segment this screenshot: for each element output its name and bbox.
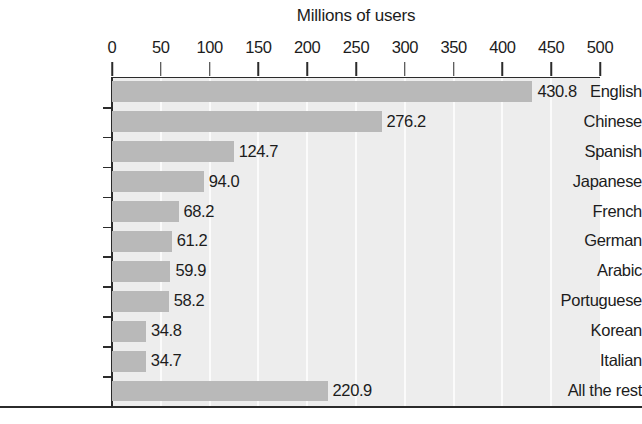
x-tick-label-100: 100 [196,38,222,57]
x-tick-mark-300 [404,62,406,76]
category-label-portuguese: Portuguese [538,291,642,310]
x-tick-label-50: 50 [152,38,170,57]
y-tick-mark [103,286,112,288]
bar-spanish [112,141,234,162]
bar-row: French68.2 [0,197,642,227]
bar-value-portuguese: 58.2 [174,291,205,310]
bar-row: Korean34.8 [0,316,642,346]
x-tick-mark-100 [209,62,211,76]
bar-value-french: 68.2 [184,202,215,221]
x-tick-label-400: 400 [489,38,515,57]
bar-value-italian: 34.7 [151,351,182,370]
bar-arabic [112,261,170,282]
bar-value-arabic: 59.9 [175,261,206,280]
x-axis-tick-labels: 050100150200250300350400450500 [0,38,642,58]
bar-french [112,201,179,222]
category-label-chinese: Chinese [538,112,642,131]
bar-row: English430.8 [0,77,642,107]
bar-value-chinese: 276.2 [387,112,426,131]
category-label-german: German [538,231,642,250]
y-tick-mark [103,137,112,139]
bar-row: All the rest220.9 [0,376,642,406]
bar-row: Spanish124.7 [0,137,642,167]
category-label-japanese: Japanese [538,172,642,191]
bar-portuguese [112,291,169,312]
y-tick-mark [103,107,112,109]
y-tick-mark [103,256,112,258]
bar-value-japanese: 94.0 [209,172,240,191]
bar-japanese [112,171,204,192]
bar-row: Italian34.7 [0,346,642,376]
bar-korean [112,321,146,342]
y-tick-mark [103,376,112,378]
bar-italian [112,351,146,372]
y-tick-mark [103,167,112,169]
bar-english [112,81,532,102]
x-tick-label-250: 250 [343,38,369,57]
bar-row: Chinese276.2 [0,107,642,137]
y-tick-mark [103,197,112,199]
bottom-axis-line [0,406,642,408]
x-tick-label-150: 150 [245,38,271,57]
bar-row: Arabic59.9 [0,256,642,286]
bar-german [112,231,172,252]
category-label-arabic: Arabic [538,261,642,280]
x-tick-mark-400 [502,62,504,76]
y-tick-mark [103,227,112,229]
bar-value-all-the-rest: 220.9 [333,381,372,400]
x-tick-mark-350 [453,62,455,76]
bar-value-english: 430.8 [537,82,576,101]
bar-chart: Millions of users 0501001502002503003504… [0,0,642,424]
y-tick-mark [103,346,112,348]
category-label-spanish: Spanish [538,142,642,161]
bar-row: Portuguese58.2 [0,286,642,316]
y-tick-mark [103,316,112,318]
x-tick-label-300: 300 [392,38,418,57]
x-tick-mark-250 [355,62,357,76]
x-tick-mark-500 [599,62,601,76]
bar-value-spanish: 124.7 [239,142,278,161]
x-tick-label-0: 0 [108,38,117,57]
bar-value-korean: 34.8 [151,321,182,340]
category-label-all-the-rest: All the rest [538,381,642,400]
category-label-korean: Korean [538,321,642,340]
bar-chinese [112,111,382,132]
x-tick-mark-200 [306,62,308,76]
bar-value-german: 61.2 [177,231,208,250]
x-tick-mark-50 [160,62,162,76]
x-tick-mark-450 [550,62,552,76]
category-label-italian: Italian [538,351,642,370]
chart-title: Millions of users [112,6,600,26]
bar-row: Japanese94.0 [0,167,642,197]
x-tick-mark-0 [111,62,113,76]
x-tick-mark-150 [258,62,260,76]
x-axis-tick-marks [0,62,642,78]
x-tick-label-350: 350 [440,38,466,57]
bar-row: German61.2 [0,227,642,257]
x-tick-label-200: 200 [294,38,320,57]
category-label-french: French [538,202,642,221]
x-tick-label-450: 450 [538,38,564,57]
x-tick-label-500: 500 [587,38,613,57]
bar-all-the-rest [112,381,328,402]
